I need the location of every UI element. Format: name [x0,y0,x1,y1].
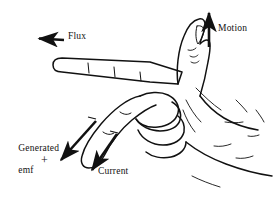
palm-crease-2 [186,100,201,122]
flux-label: Flux [68,31,86,42]
current-arrow [92,134,117,170]
hand-outline [53,19,272,187]
current-label: Current [98,166,128,177]
index-finger [53,58,182,84]
generated-emf-line-2: emf [18,165,33,175]
generated-emf-line-1: Generated [18,143,59,153]
generated-emf-label: Generated emf [8,132,59,187]
wrist-lines [192,176,220,187]
motion-label: Motion [218,23,247,34]
folded-finger-upper [136,92,179,127]
polarity-plus-label: + [41,155,48,166]
thumb-creases [188,48,199,63]
palm-lower-edge [186,142,272,176]
middle-finger [81,96,156,168]
diagram-canvas: Flux Motion Current Generated emf + [0,0,275,200]
generated-emf-arrow [61,121,96,160]
flux-arrow [39,39,64,41]
palm-upper-edge [200,96,258,130]
middle-finger-creases [103,112,131,134]
